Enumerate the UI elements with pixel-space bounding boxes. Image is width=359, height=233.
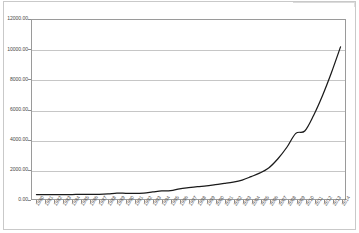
- y-axis-tick-label: 2000.00: [0, 167, 28, 172]
- y-axis-tick-label: 6000.00: [0, 107, 28, 112]
- y-axis-tick-label: 12000.00: [0, 16, 28, 21]
- plot-area: [31, 19, 346, 200]
- y-axis-tick-label: 0.00: [0, 197, 28, 202]
- chart-figure: 0.002000.004000.006000.008000.0010000.00…: [0, 0, 359, 233]
- y-axis-tick-label: 10000.00: [0, 47, 28, 52]
- data-line-series: [32, 20, 345, 199]
- y-axis-tick-label: 8000.00: [0, 77, 28, 82]
- cropped-top-element: [293, 2, 355, 7]
- series-path: [36, 47, 340, 195]
- y-axis-tick-mark: [28, 200, 31, 201]
- y-axis-tick-label: 4000.00: [0, 137, 28, 142]
